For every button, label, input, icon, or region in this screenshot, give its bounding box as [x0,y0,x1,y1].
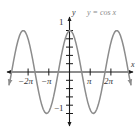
equation-label: y = cos x [87,9,116,17]
y-tick-label-neg-one: −1 [54,104,64,113]
y-tick-label-one: 1 [59,18,64,27]
plot-canvas [0,0,140,131]
y-axis-label: y [72,9,76,17]
x-tick-label-2pi: 2π [104,77,113,86]
cosine-graph-figure: −2π −π π 2π 1 −1 x y y = cos x [0,0,140,131]
x-axis-label: x [131,61,135,69]
x-tick-label-neg-2pi: −2π [18,77,33,86]
x-tick-label-pi: π [87,77,92,86]
x-tick-label-neg-pi: −π [41,77,52,86]
